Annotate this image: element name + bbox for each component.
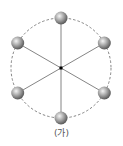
hexagonal-sphere-diagram xyxy=(0,0,123,146)
spoke-lower-left xyxy=(18,68,61,93)
sphere-top xyxy=(55,12,68,25)
spoke-upper-left xyxy=(18,43,61,68)
spoke-upper-right xyxy=(61,43,104,68)
sphere-upper-left xyxy=(11,37,24,50)
sphere-upper-right xyxy=(98,37,111,50)
sphere-bottom xyxy=(55,112,68,125)
sphere-lower-right xyxy=(98,87,111,100)
diagram-caption: (가) xyxy=(0,127,123,139)
center-point xyxy=(60,67,63,70)
sphere-lower-left xyxy=(11,87,24,100)
spoke-lower-right xyxy=(61,68,104,93)
